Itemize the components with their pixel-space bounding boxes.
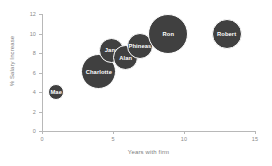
y-tick-mark <box>39 34 42 35</box>
plot-area: 024681012 051015 MaeCharlotteJaneAlanPhi… <box>42 14 255 131</box>
bubble-label: Alan <box>119 55 132 61</box>
x-axis-line <box>42 131 255 132</box>
x-tick-label: 5 <box>103 136 123 142</box>
y-tick-label: 8 <box>22 50 36 56</box>
bubble-label: Phineas <box>129 43 152 49</box>
bubble-label: Ron <box>163 31 175 37</box>
y-tick-mark <box>39 53 42 54</box>
y-tick-label: 10 <box>22 31 36 37</box>
bubble-point[interactable]: Ron <box>148 14 188 54</box>
x-tick-label: 0 <box>32 136 52 142</box>
y-axis-title: % Salary Increase <box>9 21 15 101</box>
x-axis-title: Years with firm <box>42 149 255 155</box>
x-tick-mark <box>184 131 185 134</box>
x-tick-mark <box>255 131 256 134</box>
x-tick-mark <box>113 131 114 134</box>
y-tick-mark <box>39 112 42 113</box>
x-tick-label: 10 <box>174 136 194 142</box>
bubble-label: Charlotte <box>86 69 112 75</box>
y-tick-label: 0 <box>22 128 36 134</box>
y-tick-label: 12 <box>22 11 36 17</box>
y-tick-mark <box>39 92 42 93</box>
y-tick-label: 6 <box>22 70 36 76</box>
bubble-point[interactable]: Robert <box>212 19 242 49</box>
bubble-chart: % Salary Increase Years with firm 024681… <box>0 0 272 166</box>
bubble-label: Robert <box>217 31 236 37</box>
bubble-point[interactable]: Mae <box>48 84 64 100</box>
bubble-label: Mae <box>50 89 62 95</box>
x-tick-mark <box>42 131 43 134</box>
x-tick-label: 15 <box>245 136 265 142</box>
y-tick-mark <box>39 14 42 15</box>
y-tick-label: 4 <box>22 89 36 95</box>
y-tick-mark <box>39 73 42 74</box>
y-tick-label: 2 <box>22 109 36 115</box>
y-axis-line <box>42 14 43 131</box>
